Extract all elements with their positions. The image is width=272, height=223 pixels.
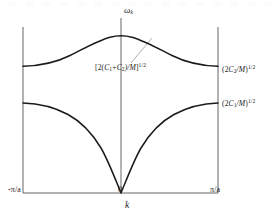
annotation-right-lower-exponent: 1/2	[248, 98, 255, 104]
x-tick-label-right: π/a	[210, 186, 220, 194]
annotation-optical-peak-over-m: )/M	[125, 63, 136, 72]
annotation-optical-peak-exponent: 1/2	[139, 62, 146, 68]
acoustic-branch-curve	[23, 103, 218, 193]
y-axis-label-subscript: k	[130, 9, 133, 15]
annotation-right-upper-exponent: 1/2	[248, 64, 255, 70]
x-axis-label: k	[125, 201, 129, 211]
leader-line-optical-peak	[131, 38, 152, 63]
annotation-right-upper-over-m: /M	[237, 65, 246, 74]
annotation-right-upper: (2C2/M)1/2	[222, 66, 255, 74]
optical-branch-curve	[23, 36, 218, 67]
plot-canvas	[0, 0, 272, 223]
annotation-optical-peak: [2(C1+C2)/M]1/2	[95, 64, 146, 72]
annotation-right-lower: (2C1/M)1/2	[222, 100, 255, 108]
annotation-right-lower-over-m: /M	[237, 99, 246, 108]
y-axis-label: ωk	[124, 6, 133, 15]
x-tick-label-zero: 0	[118, 186, 122, 194]
x-tick-label-left: -π/a	[8, 186, 21, 194]
phonon-dispersion-figure: ωk k -π/a 0 π/a [2(C1+C2)/M]1/2 (2C2/M)1…	[0, 0, 272, 223]
annotation-optical-peak-prefix: [2(	[95, 63, 104, 72]
